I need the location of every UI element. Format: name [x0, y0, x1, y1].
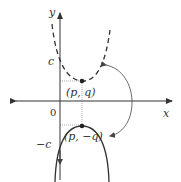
- point-p-minus-q-label: (p, −q): [64, 130, 103, 143]
- intercept-minus-c-label: −c: [36, 138, 51, 151]
- x-axis-label: x: [163, 107, 170, 120]
- point-p-q-label: (p, q): [66, 86, 96, 99]
- origin-label: 0: [50, 107, 56, 118]
- vertex-point-p-minus-q: [80, 124, 85, 129]
- intercept-c-label: c: [48, 55, 54, 68]
- y-axis-label: y: [48, 6, 56, 19]
- vertex-point-p-q: [80, 79, 85, 84]
- original-parabola-dashed: [52, 24, 110, 81]
- reflection-diagram: y x 0 c −c (p, q) (p, −q): [0, 0, 181, 182]
